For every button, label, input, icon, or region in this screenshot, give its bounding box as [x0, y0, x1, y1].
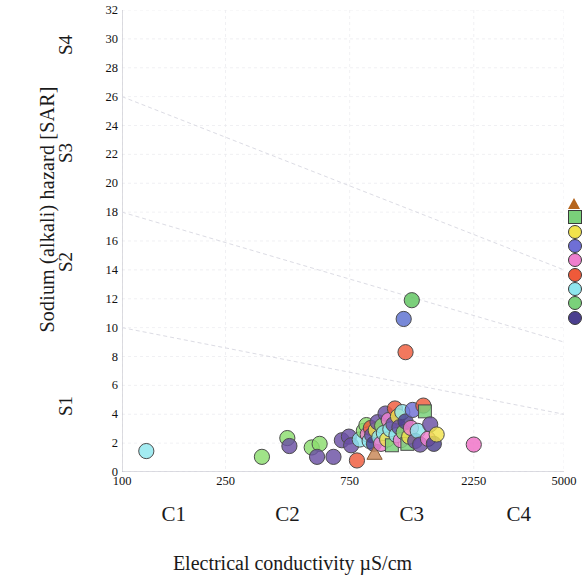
legend-item[interactable]	[568, 196, 585, 210]
legend-item[interactable]	[568, 310, 585, 324]
legend-item[interactable]	[568, 210, 585, 224]
sodium-class-boundary	[122, 328, 564, 415]
legend-circle-icon	[568, 268, 582, 282]
data-point	[139, 443, 154, 458]
data-point	[309, 449, 324, 464]
x-tick-label: 750	[340, 474, 359, 489]
salinity-class-label: C1	[161, 502, 186, 527]
y-tick-label: 2	[92, 436, 118, 451]
plot-area	[122, 10, 564, 472]
y-axis-title: Sodium (alkali) hazard [SAR]	[36, 45, 59, 375]
legend-circle-icon	[568, 253, 582, 267]
data-point	[404, 293, 419, 308]
x-tick-label: 5000	[552, 474, 577, 489]
x-tick-label: 2250	[461, 474, 486, 489]
salinity-class-label: C2	[275, 502, 300, 527]
scatter-plot-svg	[122, 10, 564, 472]
y-tick-label: 24	[92, 118, 118, 133]
sodium-class-label: S2	[55, 242, 77, 282]
legend-item[interactable]	[568, 225, 585, 239]
x-axis-title: Electrical conductivity µS/cm	[0, 552, 585, 575]
legend-circle-icon	[568, 239, 582, 253]
data-point	[326, 449, 341, 464]
x-tick-label: 100	[113, 474, 132, 489]
legend	[568, 196, 585, 325]
legend-item[interactable]	[568, 253, 585, 267]
salinity-class-label: C3	[399, 502, 424, 527]
y-tick-label: 8	[92, 349, 118, 364]
legend-item[interactable]	[568, 239, 585, 253]
y-tick-label: 20	[92, 176, 118, 191]
legend-circle-icon	[568, 282, 582, 296]
x-tick-label: 250	[216, 474, 235, 489]
y-tick-label: 30	[92, 31, 118, 46]
y-axis-tick-labels: 02468101214161820222426283032	[92, 10, 118, 472]
sodium-class-label: S1	[55, 386, 77, 426]
y-tick-label: 32	[92, 3, 118, 18]
data-point	[396, 311, 411, 326]
y-tick-label: 10	[92, 320, 118, 335]
y-tick-label: 6	[92, 378, 118, 393]
x-axis-tick-labels: 10025075022505000	[122, 474, 564, 492]
legend-item[interactable]	[568, 282, 585, 296]
data-point	[282, 438, 297, 453]
legend-circle-icon	[568, 225, 582, 239]
data-point	[429, 427, 444, 442]
data-point	[398, 345, 413, 360]
data-point	[418, 405, 431, 418]
legend-triangle-icon	[568, 198, 580, 209]
legend-circle-icon	[568, 311, 582, 325]
y-tick-label: 12	[92, 291, 118, 306]
sodium-class-label: S4	[55, 25, 77, 65]
data-point	[466, 437, 481, 452]
legend-circle-icon	[568, 296, 582, 310]
legend-item[interactable]	[568, 296, 585, 310]
data-point	[349, 453, 364, 468]
salinity-class-label: C4	[507, 502, 532, 527]
y-tick-label: 18	[92, 205, 118, 220]
y-tick-label: 28	[92, 60, 118, 75]
sodium-class-boundary	[122, 212, 564, 342]
y-tick-label: 16	[92, 234, 118, 249]
y-tick-label: 4	[92, 407, 118, 422]
y-tick-label: 26	[92, 89, 118, 104]
sodium-class-label: S3	[55, 133, 77, 173]
y-tick-label: 14	[92, 262, 118, 277]
salinity-class-labels: C1C2C3C4	[122, 502, 564, 536]
legend-item[interactable]	[568, 267, 585, 281]
y-tick-label: 22	[92, 147, 118, 162]
legend-square-icon	[568, 210, 582, 224]
data-point	[254, 449, 269, 464]
